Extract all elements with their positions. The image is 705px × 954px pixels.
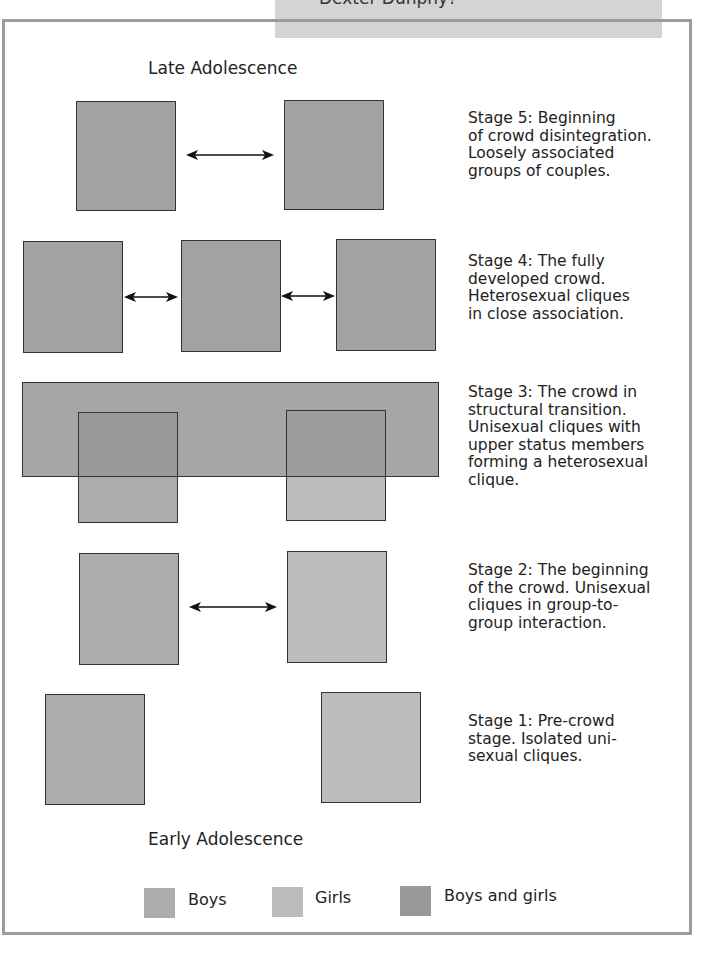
stage-1-description: Stage 1: Pre-crowd stage. Isolated uni- … [468, 713, 693, 766]
desc-line: stage. Isolated uni- [468, 731, 693, 749]
double-arrow-icon [124, 291, 178, 303]
legend-swatch-boys-and-girls [400, 886, 431, 916]
desc-line: developed crowd. [468, 271, 693, 289]
double-arrow-icon [186, 149, 274, 161]
desc-line: groups of couples. [468, 163, 693, 181]
desc-line: Loosely associated [468, 145, 693, 163]
desc-line: cliques in group-to- [468, 597, 693, 615]
stage-5-couple-right [284, 100, 384, 210]
stage-1-girls-clique [321, 692, 421, 803]
desc-line: Stage 3: The crowd in [468, 384, 693, 402]
stage-5-description: Stage 5: Beginning of crowd disintegrati… [468, 110, 693, 180]
desc-line: clique. [468, 472, 693, 490]
stage-2-boys-clique [79, 553, 179, 665]
legend-swatch-girls [272, 887, 303, 917]
desc-line: sexual cliques. [468, 748, 693, 766]
legend-swatch-boys [144, 888, 175, 918]
stage-4-clique-right [336, 239, 436, 351]
early-adolescence-label: Early Adolescence [148, 829, 303, 849]
desc-line: forming a heterosexual [468, 454, 693, 472]
desc-line: upper status members [468, 437, 693, 455]
desc-line: structural transition. [468, 402, 693, 420]
desc-line: Heterosexual cliques [468, 288, 693, 306]
stage-3-description: Stage 3: The crowd in structural transit… [468, 384, 693, 489]
legend-label-girls: Girls [315, 888, 351, 907]
late-adolescence-label: Late Adolescence [148, 58, 297, 78]
double-arrow-icon [189, 601, 277, 613]
desc-line: Stage 2: The beginning [468, 562, 693, 580]
desc-line: group interaction. [468, 615, 693, 633]
desc-line: Unisexual cliques with [468, 419, 693, 437]
stage-2-description: Stage 2: The beginning of the crowd. Uni… [468, 562, 693, 632]
stage-3-girls-clique-outline [286, 410, 386, 521]
desc-line: in close association. [468, 306, 693, 324]
stage-4-clique-left [23, 241, 123, 353]
desc-line: Stage 1: Pre-crowd [468, 713, 693, 731]
double-arrow-icon [281, 290, 335, 302]
desc-line: of the crowd. Unisexual [468, 580, 693, 598]
desc-line: of crowd disintegration. [468, 128, 693, 146]
legend-label-boys-and-girls: Boys and girls [444, 886, 557, 905]
banner-text: Dexter Dunphy? [319, 0, 457, 8]
legend-label-boys: Boys [188, 890, 227, 909]
desc-line: Stage 4: The fully [468, 253, 693, 271]
desc-line: Stage 5: Beginning [468, 110, 693, 128]
stage-2-girls-clique [287, 551, 387, 663]
stage-1-boys-clique [45, 694, 145, 805]
stage-4-clique-middle [181, 240, 281, 352]
stage-4-description: Stage 4: The fully developed crowd. Hete… [468, 253, 693, 323]
stage-5-couple-left [76, 101, 176, 211]
stage-3-boys-clique-outline [78, 412, 178, 523]
